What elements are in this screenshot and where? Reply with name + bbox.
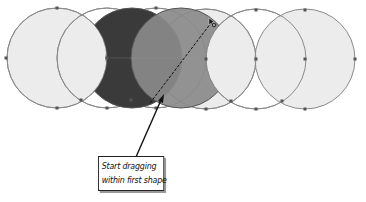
callout-leader-line: [136, 100, 161, 157]
callout-label-box: Start dragging within first shape: [98, 156, 164, 191]
diagram-canvas: Start dragging within first shape: [0, 0, 366, 202]
callout-line-2: within first shape: [102, 173, 161, 187]
callout-line-1: Start dragging: [102, 159, 161, 173]
